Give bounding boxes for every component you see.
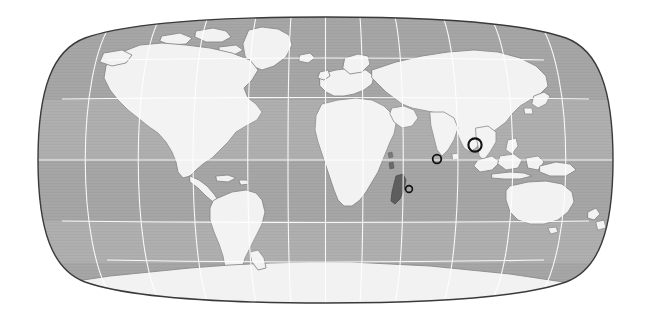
land-east-africa-isles: [389, 162, 394, 169]
world-map-canvas: [0, 0, 652, 329]
world-map-figure: [0, 0, 652, 329]
